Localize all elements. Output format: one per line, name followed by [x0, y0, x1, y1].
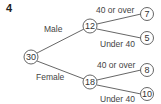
- leaf-male-under40-value: 5: [144, 33, 149, 43]
- branch-label-male: Male: [44, 24, 63, 34]
- leaf-male-over40: 7: [141, 8, 154, 21]
- branch-label-female: Female: [36, 72, 65, 82]
- female-node-value: 18: [85, 77, 95, 87]
- edge-female-over40: [97, 70, 141, 80]
- leaf-male-under40: 5: [141, 32, 154, 45]
- branch-label-male-under40: Under 40: [100, 39, 135, 49]
- edge-male-under40: [97, 29, 141, 38]
- frequency-tree-diagram: 30 Male 12 40 or over 7 Under 40 5 Femal…: [0, 0, 161, 104]
- leaf-male-over40-value: 7: [144, 9, 149, 19]
- branch-label-female-under40: Under 40: [100, 94, 135, 104]
- male-node-value: 12: [85, 21, 95, 31]
- branch-label-female-over40: 40 or over: [97, 60, 135, 70]
- leaf-female-over40: 8: [141, 64, 154, 77]
- edge-female-under40: [97, 85, 141, 94]
- branch-label-male-over40: 40 or over: [96, 5, 134, 15]
- male-node: 12: [83, 19, 97, 33]
- edge-male-over40: [97, 14, 141, 24]
- leaf-female-under40-value: 10: [142, 89, 152, 99]
- root-node-value: 30: [26, 52, 36, 62]
- root-node: 30: [24, 50, 38, 64]
- leaf-female-under40: 10: [141, 88, 154, 101]
- leaf-female-over40-value: 8: [144, 65, 149, 75]
- female-node: 18: [83, 75, 97, 89]
